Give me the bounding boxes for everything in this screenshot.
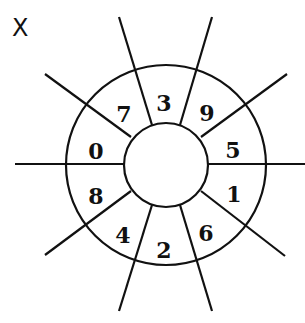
segment-number: 2: [156, 237, 171, 263]
segment-number: 8: [88, 183, 103, 209]
segment-number: 7: [116, 101, 131, 127]
segment-number: 6: [198, 220, 213, 246]
spoke-line: [119, 205, 152, 311]
segment-number: 9: [199, 100, 214, 126]
segment-number: 0: [88, 138, 103, 164]
segment-number: 1: [226, 181, 241, 207]
number-wheel-diagram: 3951624807: [0, 0, 305, 323]
segment-number: 3: [156, 90, 171, 116]
segment-number: 5: [225, 137, 240, 163]
segment-number: 4: [115, 222, 130, 248]
inner-circle: [124, 123, 208, 207]
